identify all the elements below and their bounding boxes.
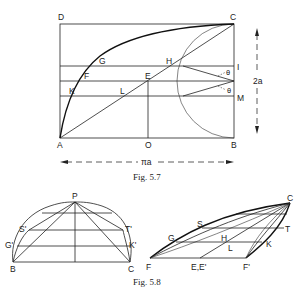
label-g: G bbox=[99, 56, 106, 66]
label-s: S bbox=[197, 219, 203, 229]
ray-p-t bbox=[75, 202, 123, 230]
label-k-prime: K' bbox=[129, 240, 137, 250]
fig-5-7: D C A O B G F K E L H I M θ θ 2a πa Fig.… bbox=[57, 12, 263, 182]
label-h: H bbox=[166, 56, 172, 66]
arrowhead-up-icon bbox=[255, 28, 259, 36]
label-c: C bbox=[128, 264, 134, 274]
label-g-prime: G' bbox=[5, 240, 14, 250]
label-b: B bbox=[231, 140, 237, 150]
label-c: C bbox=[230, 12, 236, 22]
label-k: K bbox=[69, 86, 75, 96]
label-b: B bbox=[10, 264, 16, 274]
arrowhead-down-icon bbox=[255, 126, 259, 134]
label-l: L bbox=[228, 243, 233, 253]
label-theta-upper: θ bbox=[226, 68, 230, 77]
label-e: E bbox=[145, 71, 151, 81]
angle-mark-lower bbox=[218, 86, 226, 90]
label-i: I bbox=[237, 62, 239, 72]
fig-5-8-left: P B C S' T' G' K' bbox=[5, 191, 137, 274]
label-p: P bbox=[72, 191, 78, 201]
upper-curve-2 bbox=[150, 203, 290, 258]
ray-p-c bbox=[75, 202, 130, 262]
label-c: C bbox=[287, 193, 293, 203]
fig-5-8-right: C S T G H L K F E,E' F' bbox=[146, 193, 293, 272]
angle-mark-upper bbox=[218, 72, 226, 76]
label-o: O bbox=[145, 140, 152, 150]
ray-p-s bbox=[29, 202, 75, 230]
arrowhead-left-icon bbox=[60, 160, 68, 164]
label-2a: 2a bbox=[253, 76, 263, 86]
label-s-prime: S' bbox=[19, 224, 27, 234]
label-g: G bbox=[168, 233, 175, 243]
label-pi-a: πa bbox=[141, 157, 152, 167]
label-h: H bbox=[221, 233, 227, 243]
label-d: D bbox=[58, 12, 64, 22]
arrowhead-right-icon bbox=[226, 160, 234, 164]
label-theta-lower: θ bbox=[227, 86, 231, 95]
label-t-prime: T' bbox=[125, 224, 132, 234]
label-t: T bbox=[285, 224, 290, 234]
caption-fig-5-7: Fig. 5.7 bbox=[133, 172, 161, 182]
figure-canvas: D C A O B G F K E L H I M θ θ 2a πa Fig.… bbox=[0, 0, 302, 295]
label-a: A bbox=[57, 140, 63, 150]
upper-curve-3 bbox=[150, 203, 290, 258]
right-curve-2 bbox=[246, 203, 290, 258]
caption-fig-5-8: Fig. 5.8 bbox=[133, 277, 161, 287]
upper-curve-f-c bbox=[150, 203, 290, 258]
label-e-e-prime: E,E' bbox=[191, 262, 207, 272]
label-m: M bbox=[237, 93, 244, 103]
label-f: F bbox=[84, 71, 89, 81]
label-f-prime: F' bbox=[243, 262, 250, 272]
label-f: F bbox=[146, 262, 151, 272]
outer-arc bbox=[13, 202, 132, 262]
label-l: L bbox=[120, 86, 125, 96]
label-k: K bbox=[266, 239, 272, 249]
